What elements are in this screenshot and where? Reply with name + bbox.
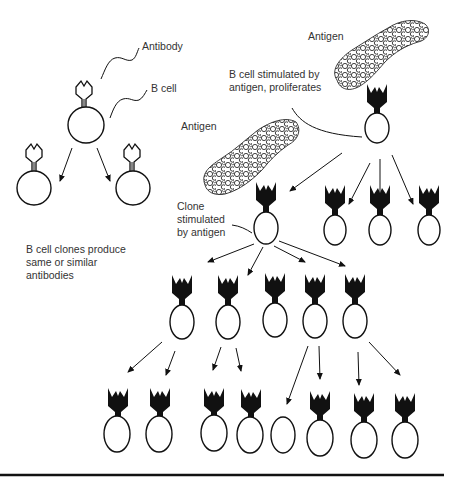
clones-caption-line: B cell clones produce: [26, 243, 126, 256]
arrow: [358, 352, 359, 385]
clones-caption-line: same or similar: [26, 256, 126, 269]
row3-cell: [307, 391, 333, 456]
stimulated-callout-line: [292, 108, 362, 137]
arrow: [287, 346, 308, 404]
antibody-callout-line: [101, 48, 139, 79]
clones-caption: B cell clones produce same or similar an…: [26, 243, 126, 282]
stimulated-caption-line: B cell stimulated by: [229, 68, 321, 81]
row1-cell: [418, 185, 440, 245]
clone-b-cell-right: [116, 144, 150, 205]
row2-cell: [263, 273, 287, 337]
b-cell-label: B cell: [151, 82, 177, 95]
row3-cell-no-antibody: [271, 417, 295, 453]
antibody-label: Antibody: [142, 40, 183, 53]
arrow: [290, 153, 342, 191]
left-panel: [17, 48, 150, 205]
arrow: [274, 246, 305, 262]
clone-caption-line: Clone: [177, 200, 225, 213]
clone-caption: Clone stimulated by antigen: [177, 200, 225, 239]
stimulated-caption: B cell stimulated by antigen, proliferat…: [229, 68, 321, 94]
row2-cell: [216, 275, 240, 339]
antigen-label-mid: Antigen: [181, 120, 217, 133]
row2-cell: [303, 274, 327, 338]
stimulated-b-cell: [365, 84, 389, 143]
arrow: [208, 244, 254, 262]
stimulated-caption-line: antigen, proliferates: [229, 81, 321, 94]
arrow: [392, 155, 413, 204]
row2-cell: [343, 274, 367, 338]
arrow: [349, 163, 370, 204]
arrow: [248, 247, 263, 275]
row3-cell: [201, 388, 227, 451]
arrow: [128, 342, 162, 372]
row3-cell: [104, 388, 130, 452]
row2-cells: [170, 273, 367, 339]
arrow: [97, 148, 110, 181]
clone-callout-line: [232, 225, 252, 233]
arrow: [166, 351, 175, 375]
clone-b-cell-left: [17, 144, 51, 205]
row1-cell: [369, 185, 391, 245]
row3-cells: [104, 388, 418, 458]
arrow: [213, 347, 221, 370]
arrow: [369, 342, 400, 375]
antigen-blob-top: [335, 21, 429, 90]
row3-cell: [237, 389, 263, 453]
clone-stimulated-by-antigen: [254, 182, 278, 244]
arrow: [236, 348, 241, 371]
row1-cell: [324, 185, 346, 245]
arrow: [60, 148, 72, 181]
parent-b-cell: [68, 81, 104, 143]
bcell-callout-line: [110, 90, 147, 118]
row2-cell: [170, 275, 194, 339]
row1-cells: [254, 182, 440, 245]
arrow: [319, 346, 320, 379]
row3-cell: [392, 393, 418, 458]
row3-cell: [146, 388, 172, 452]
clone-caption-line: stimulated: [177, 213, 225, 226]
clones-caption-line: antibodies: [26, 269, 126, 282]
row3-cell: [351, 393, 377, 458]
antigen-blob-mid: [204, 120, 299, 195]
clone-caption-line: by antigen: [177, 226, 225, 239]
antigen-label-top: Antigen: [308, 30, 344, 43]
